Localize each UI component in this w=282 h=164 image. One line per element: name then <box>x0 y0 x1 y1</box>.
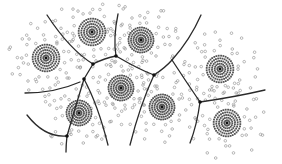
core-dot <box>231 119 233 121</box>
core-dot <box>150 46 152 48</box>
scatter-dot <box>19 73 22 76</box>
core-dot <box>44 65 46 67</box>
scatter-dot <box>262 111 265 114</box>
diagram-canvas <box>0 0 282 164</box>
core-dot <box>90 44 92 46</box>
core-dot <box>142 49 144 51</box>
core-dot <box>76 122 78 124</box>
scatter-dot <box>157 46 160 49</box>
core-dot <box>222 68 224 70</box>
core-dot <box>100 37 102 39</box>
scatter-dot <box>252 98 255 101</box>
scatter-dot <box>42 34 45 37</box>
core-dot <box>228 133 230 135</box>
core-dot <box>75 119 77 121</box>
scatter-dot <box>245 134 248 137</box>
core-dot <box>219 125 221 127</box>
core-dot <box>215 58 217 60</box>
core-dot <box>109 93 111 95</box>
core-dot <box>218 129 220 131</box>
scatter-dot <box>116 44 119 47</box>
core-dot <box>218 123 220 125</box>
core-dot <box>234 119 236 121</box>
core-dot <box>225 109 227 111</box>
core-dot <box>206 67 208 69</box>
core-dot <box>94 31 96 33</box>
core-dot <box>209 67 211 69</box>
core-dot <box>124 78 126 80</box>
scatter-dot <box>35 42 38 45</box>
scatter-dot <box>254 116 257 119</box>
scatter-dot <box>200 65 203 68</box>
core-dot <box>210 78 212 80</box>
scatter-dot <box>225 145 228 148</box>
core-dot <box>38 54 40 56</box>
core-dot <box>67 118 69 120</box>
core-dot <box>158 94 160 96</box>
core-dot <box>151 99 153 101</box>
core-dot <box>130 32 132 34</box>
scatter-dot <box>76 53 79 56</box>
core-dot <box>103 25 105 27</box>
core-dot <box>99 28 101 30</box>
core-dot <box>218 81 220 83</box>
scatter-dot <box>181 97 184 100</box>
core-dot <box>212 71 214 73</box>
core-dot <box>152 44 154 46</box>
core-dot <box>132 90 134 92</box>
core-dot <box>219 79 221 81</box>
core-dot <box>144 48 146 50</box>
core-dot <box>225 127 227 129</box>
scatter-dot <box>131 106 134 109</box>
core-dot <box>50 56 52 58</box>
core-dot <box>68 105 70 107</box>
scatter-dot <box>147 94 150 97</box>
core-dot <box>85 19 87 21</box>
core-dot <box>228 74 230 76</box>
core-dot <box>150 43 152 45</box>
core-dot <box>92 36 94 38</box>
core-dot <box>150 112 152 114</box>
core-dot <box>154 107 156 109</box>
core-dot <box>56 56 58 58</box>
core-dot <box>127 94 129 96</box>
scatter-dot <box>211 85 214 88</box>
core-dot <box>169 105 171 107</box>
core-dot <box>125 86 127 88</box>
core-dot <box>226 133 228 135</box>
core-dot <box>34 58 36 60</box>
scatter-dot <box>216 106 219 109</box>
core-dot <box>226 117 228 119</box>
core-dot <box>148 40 150 42</box>
core-dot <box>150 40 152 42</box>
core-dot <box>58 56 60 58</box>
scatter-dot <box>203 33 206 36</box>
core-dot <box>147 29 149 31</box>
core-dot <box>78 28 80 30</box>
core-dot <box>149 105 151 107</box>
core-dot <box>228 117 230 119</box>
core-dot <box>79 105 81 107</box>
core-dot <box>99 42 101 44</box>
core-dot <box>69 103 71 105</box>
scatter-dot <box>75 88 78 91</box>
core-dot <box>207 74 209 76</box>
core-dot <box>123 80 125 82</box>
core-dot <box>41 47 43 49</box>
scatter-dot <box>237 82 240 85</box>
core-dot <box>140 49 142 51</box>
core-dot <box>216 121 218 123</box>
core-dot <box>224 69 226 71</box>
core-dot <box>158 113 160 115</box>
core-dot <box>221 134 223 136</box>
core-dot <box>88 116 90 118</box>
core-dot <box>229 122 231 124</box>
boundary-line <box>84 64 93 79</box>
core-dot <box>164 99 166 101</box>
core-dot <box>104 32 106 34</box>
core-dot <box>116 90 118 92</box>
core-dot <box>230 132 232 134</box>
scatter-dot <box>140 115 143 118</box>
core-dot <box>111 84 113 86</box>
core-dot <box>231 62 233 64</box>
